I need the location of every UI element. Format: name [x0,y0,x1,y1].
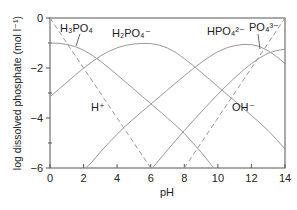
x-tick-2: 2 [81,172,87,184]
y-tick-0: 0 [37,12,43,24]
x-tick-12: 12 [245,172,257,184]
x-tick-6: 6 [148,172,154,184]
species-labels: H₃PO₄ H₂PO₄⁻ HPO₄²⁻ PO₄³⁻ H⁺ OH⁻ [60,21,279,113]
y-ticks [46,18,52,168]
h3po4-curve [50,43,215,170]
plot-frame [50,18,285,168]
oh-minus-line [184,18,285,168]
po4-curve [151,49,285,170]
x-tick-4: 4 [114,172,120,184]
y-tick-2: −2 [30,62,43,74]
label-h3po4: H₃PO₄ [60,22,93,34]
x-tick-0: 0 [47,172,53,184]
label-h2po4: H₂PO₄⁻ [112,27,151,39]
label-po4: PO₄³⁻ [249,21,279,33]
x-tick-10: 10 [212,172,224,184]
h3po4-leader [76,34,80,46]
x-tick-labels: 0 2 4 6 8 10 12 14 [47,172,291,184]
h2po4-curve [50,43,285,149]
h-plus-line [50,18,151,168]
label-oh-minus: OH⁻ [232,101,255,113]
hpo4-curve [84,44,285,170]
label-h-plus: H⁺ [91,101,105,113]
phosphate-speciation-chart: 0 −2 −4 −6 0 2 4 6 8 10 12 14 pH log dis… [0,0,297,210]
y-axis-label: log dissolved phosphate (mol l⁻¹) [11,16,23,170]
y-tick-4: −4 [30,112,43,124]
x-ticks [50,164,285,168]
y-tick-labels: 0 −2 −4 −6 [30,12,43,174]
x-tick-8: 8 [181,172,187,184]
x-axis-label: pH [160,186,174,198]
label-hpo4: HPO₄²⁻ [207,25,245,37]
y-tick-6: −6 [30,162,43,174]
x-tick-14: 14 [279,172,291,184]
